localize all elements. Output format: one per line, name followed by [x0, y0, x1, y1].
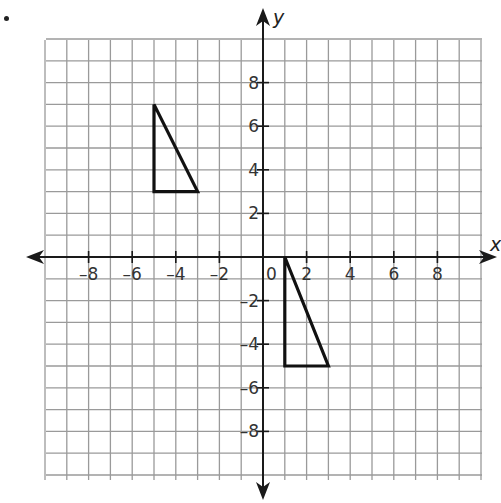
bullet-marker	[4, 16, 9, 21]
coordinate-plane-figure: –8–6–4–224688642–2–4–6–80 x y	[0, 0, 501, 503]
x-tick-label: –8	[79, 264, 98, 284]
y-tick-label: 2	[248, 203, 259, 223]
y-tick-label: –4	[240, 334, 259, 354]
x-tick-label: 6	[388, 264, 399, 284]
coordinate-grid: –8–6–4–224688642–2–4–6–80 x y	[0, 0, 501, 503]
x-tick-label: –2	[210, 264, 229, 284]
y-axis-label: y	[272, 6, 285, 28]
origin-label: 0	[266, 264, 277, 284]
y-tick-label: –6	[240, 378, 259, 398]
y-tick-label: –2	[240, 291, 259, 311]
y-tick-label: –8	[240, 421, 259, 441]
x-tick-label: 4	[345, 264, 356, 284]
x-tick-label: 8	[432, 264, 443, 284]
y-tick-label: 6	[248, 116, 259, 136]
x-axis-label: x	[489, 233, 501, 255]
y-tick-label: 4	[248, 160, 259, 180]
x-tick-label: –4	[166, 264, 185, 284]
y-tick-label: 8	[248, 73, 259, 93]
x-tick-label: 2	[301, 264, 312, 284]
x-tick-label: –6	[123, 264, 142, 284]
